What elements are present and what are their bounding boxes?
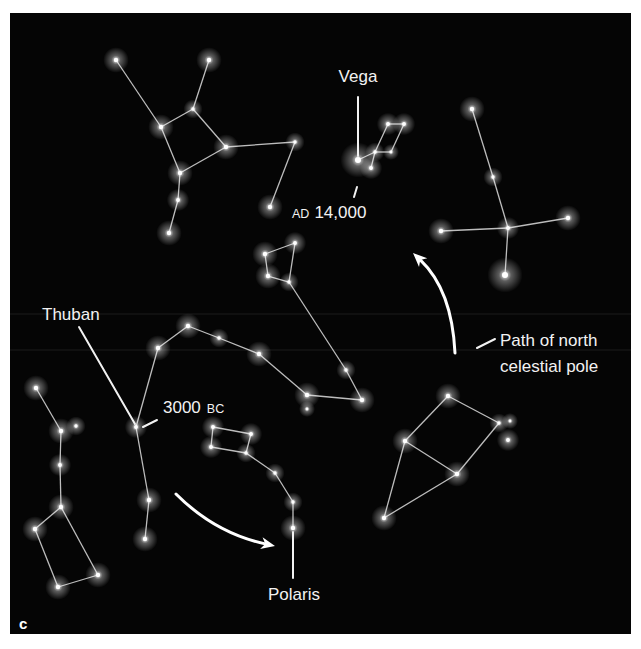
star-icon xyxy=(240,423,262,445)
star-icon xyxy=(497,217,519,239)
star-icon xyxy=(236,443,255,462)
star-icon xyxy=(167,189,189,211)
star-icon xyxy=(175,313,201,339)
star-icon xyxy=(336,360,355,379)
star-icon xyxy=(265,463,284,482)
star-icon xyxy=(209,328,228,347)
star-icon xyxy=(383,144,399,160)
star-icon xyxy=(459,96,485,122)
star-icon xyxy=(279,272,298,291)
star-icon xyxy=(487,257,522,292)
star-icon xyxy=(103,47,129,73)
star-icon xyxy=(299,401,315,417)
star-icon xyxy=(85,562,111,588)
path-label-line1: Path of north xyxy=(500,331,597,350)
star-icon xyxy=(283,492,302,511)
star-icon xyxy=(428,218,454,244)
star-icon xyxy=(49,454,71,476)
star-icon xyxy=(48,494,74,520)
star-icon xyxy=(284,232,306,254)
precession-star-chart: Vega AD14,000 Thuban 3000BC Polaris Path… xyxy=(0,0,641,649)
star-icon xyxy=(257,194,283,220)
star-icon xyxy=(213,134,239,160)
star-icon xyxy=(393,113,415,135)
star-icon xyxy=(22,516,48,542)
star-icon xyxy=(45,574,71,600)
star-icon xyxy=(497,429,519,451)
star-icon xyxy=(371,505,397,531)
polaris-label: Polaris xyxy=(268,585,320,604)
star-icon xyxy=(435,383,461,409)
star-icon xyxy=(167,160,193,186)
star-icon xyxy=(360,157,382,179)
star-icon xyxy=(145,335,171,361)
star-icon xyxy=(555,205,581,231)
star-icon xyxy=(444,461,470,487)
star-icon xyxy=(200,436,222,458)
star-icon xyxy=(156,220,182,246)
star-icon xyxy=(246,341,272,367)
star-icon xyxy=(252,241,278,267)
star-icon xyxy=(483,167,502,186)
thuban-label: Thuban xyxy=(42,305,100,324)
star-icon xyxy=(66,416,85,435)
star-icon xyxy=(255,263,281,289)
panel-letter: c xyxy=(19,615,27,632)
star-icon xyxy=(196,47,222,73)
star-icon xyxy=(285,132,304,151)
star-icon xyxy=(502,413,518,429)
path-label-line2: celestial pole xyxy=(500,357,598,376)
night-sky-panel xyxy=(10,13,631,634)
star-icon xyxy=(183,99,202,118)
star-icon xyxy=(132,526,158,552)
star-icon xyxy=(23,375,49,401)
star-icon xyxy=(392,428,418,454)
star-icon xyxy=(349,387,375,413)
star-icon xyxy=(136,487,162,513)
star-icon xyxy=(202,416,224,438)
star-icon xyxy=(148,114,174,140)
vega-label: Vega xyxy=(339,67,378,86)
